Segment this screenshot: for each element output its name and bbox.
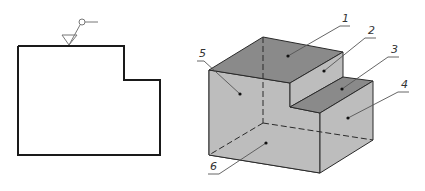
label-2: 2 <box>368 24 375 37</box>
isometric-block <box>209 37 373 173</box>
label-1: 1 <box>342 12 349 25</box>
label-5: 5 <box>199 47 206 60</box>
surface-roughness-icon <box>62 19 98 45</box>
drawing-canvas: 1 2 3 4 5 6 <box>0 0 425 191</box>
front-view-outline <box>18 46 160 155</box>
label-3: 3 <box>391 43 398 56</box>
label-4: 4 <box>401 78 408 91</box>
label-6: 6 <box>210 160 217 173</box>
